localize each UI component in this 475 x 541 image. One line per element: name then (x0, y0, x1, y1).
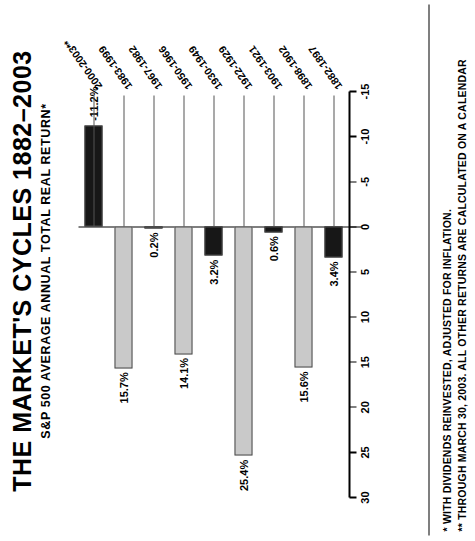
chart-bar (294, 226, 313, 367)
chart-figure: THE MARKET'S CYCLES 1882–2003 S&P 500 AV… (0, 0, 475, 541)
category-leader-line (213, 95, 214, 226)
bar-value-label: 25.4% (237, 459, 249, 490)
axis-tick-label: -5 (358, 176, 370, 186)
axis-tick-label: 30 (358, 491, 370, 503)
chart-bar (234, 226, 253, 455)
category-leader-line (333, 95, 334, 226)
rotated-figure-stage: THE MARKET'S CYCLES 1882–2003 S&P 500 AV… (0, 0, 475, 541)
axis-tick-label: 5 (358, 268, 370, 274)
chart-plot-area: 302520151050-5-10-153.4%1882-189715.6%18… (78, 91, 348, 497)
axis-tick-label: 25 (358, 446, 370, 458)
footnote-1: * WITH DIVIDENDS REINVESTED, ADJUSTED FO… (439, 8, 454, 531)
bar-value-label: 14.1% (177, 357, 189, 388)
chart-bar (174, 226, 193, 353)
axis-tick (349, 181, 356, 182)
axis-tick (349, 496, 356, 497)
chart-bar (204, 226, 223, 255)
footnotes-block: * WITH DIVIDENDS REINVESTED, ADJUSTED FO… (439, 8, 469, 531)
category-leader-line (123, 95, 124, 226)
axis-tick-label: -15 (358, 83, 370, 99)
footnote-divider (428, 4, 429, 535)
bar-value-label: 0.2% (147, 232, 159, 257)
value-axis (348, 91, 350, 497)
bar-value-label: 3.4% (327, 261, 339, 286)
axis-tick (349, 361, 356, 362)
chart-bar (324, 226, 343, 257)
page-title: THE MARKET'S CYCLES 1882–2003 (8, 0, 34, 541)
axis-tick (349, 406, 356, 407)
category-leader-line (243, 95, 244, 226)
axis-tick (349, 226, 356, 227)
footnote-2: ** THROUGH MARCH 30, 2003. ALL OTHER RET… (454, 8, 469, 531)
axis-tick-label: 10 (358, 310, 370, 322)
bar-value-label: 15.7% (117, 372, 129, 403)
chart-subtitle: S&P 500 AVERAGE ANNUAL TOTAL REAL RETURN… (38, 0, 52, 541)
bar-value-label: 3.2% (207, 259, 219, 284)
title-block: THE MARKET'S CYCLES 1882–2003 S&P 500 AV… (8, 0, 52, 541)
bar-value-label: 0.6% (267, 236, 279, 261)
axis-tick (349, 271, 356, 272)
axis-tick-label: 0 (358, 223, 370, 229)
category-leader-line (183, 95, 184, 226)
category-label: 2000-2003** (61, 37, 104, 92)
chart-bar (114, 226, 133, 368)
axis-tick-label: 15 (358, 356, 370, 368)
category-leader-line (273, 95, 274, 226)
axis-tick (349, 135, 356, 136)
chart-bar (264, 226, 283, 231)
axis-tick-label: 20 (358, 401, 370, 413)
axis-tick-label: -10 (358, 128, 370, 144)
axis-tick (349, 451, 356, 452)
axis-tick (349, 90, 356, 91)
bar-value-label: 15.6% (297, 371, 309, 402)
category-leader-line (93, 95, 94, 226)
category-leader-line (153, 95, 154, 226)
axis-tick (349, 316, 356, 317)
category-leader-line (303, 95, 304, 226)
